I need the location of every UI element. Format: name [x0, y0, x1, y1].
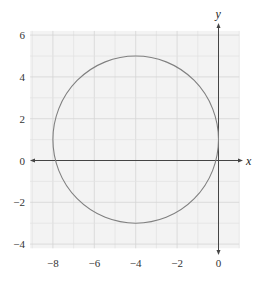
y-axis-label: y — [215, 7, 222, 21]
arrow-right-icon — [238, 159, 243, 163]
y-tick-label: 0 — [20, 155, 26, 167]
plot-area — [30, 31, 239, 248]
x-axis-label: x — [245, 154, 252, 168]
x-tick-label: 0 — [216, 257, 222, 269]
y-tick-label: 4 — [20, 71, 26, 83]
chart: −8−6−4−20 6420−2−4 x y — [0, 0, 267, 288]
y-tick-label: −2 — [13, 196, 25, 208]
x-tick-labels: −8−6−4−20 — [47, 257, 222, 269]
y-tick-label: 2 — [20, 113, 26, 125]
arrow-up-icon — [217, 23, 221, 28]
x-tick-label: −2 — [171, 257, 183, 269]
x-tick-label: −8 — [47, 257, 59, 269]
y-tick-label: 6 — [20, 29, 26, 41]
y-tick-label: −4 — [13, 238, 25, 250]
x-tick-label: −6 — [88, 257, 100, 269]
x-tick-label: −4 — [130, 257, 142, 269]
y-tick-labels: 6420−2−4 — [13, 29, 25, 250]
arrow-down-icon — [217, 250, 221, 255]
